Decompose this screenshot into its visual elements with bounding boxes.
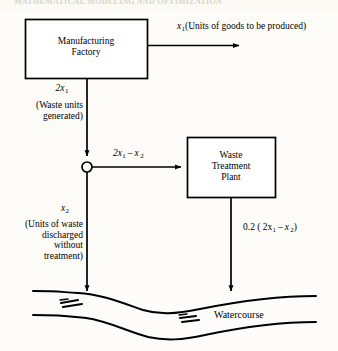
goods-output-subscript: 1 <box>181 25 185 33</box>
untreated-discharge-subscript: 2 <box>65 207 69 215</box>
treated-sub-1: 1 <box>272 226 276 234</box>
split-junction-circle <box>82 162 92 172</box>
waste-generated-subscript: 1 <box>65 87 69 95</box>
treated-prefix: 0.2 ( 2x <box>243 222 272 232</box>
manufacturing-factory-label: Manufacturing Factory <box>25 36 147 58</box>
to-treatment-minus: – <box>126 148 135 158</box>
waste-generated-var: 2x <box>56 83 65 93</box>
factory-label-line1: Manufacturing <box>25 36 147 47</box>
diagram-page: MATHEMATICAL MODELING AND OPTIMIZATION <box>0 0 338 351</box>
goods-output-text: (Units of goods to be produced) <box>185 21 306 31</box>
untreated-discharge-label: x2 <box>46 203 84 215</box>
waste-generated-label: 2x1 <box>41 83 83 95</box>
untreated-note-line3: without <box>4 240 83 251</box>
plant-label-line3: Plant <box>187 172 275 183</box>
plant-label-line2: Treatment <box>187 161 275 172</box>
untreated-note-line2: discharged <box>4 230 83 241</box>
waste-note-line2: generated) <box>8 111 83 122</box>
watercourse-label: Watercourse <box>214 310 264 321</box>
untreated-discharge-note: (Units of waste discharged without treat… <box>4 219 83 261</box>
watercourse-lower-bank <box>33 315 316 339</box>
factory-label-line2: Factory <box>25 47 147 58</box>
plant-label-line1: Waste <box>187 150 275 161</box>
untreated-note-line4: treatment) <box>4 251 83 262</box>
to-treatment-term-a: 2x <box>113 148 122 158</box>
to-treatment-sub-b: 2 <box>139 152 144 160</box>
untreated-note-line1: (Units of waste <box>4 219 83 230</box>
to-treatment-sub-a: 1 <box>122 152 126 160</box>
treated-sub-2: 2 <box>289 226 294 234</box>
waste-treatment-plant-label: Waste Treatment Plant <box>187 150 275 183</box>
treated-minus: – <box>276 222 285 232</box>
treated-discharge-label: 0.2 ( 2x1–x2) <box>243 222 297 234</box>
goods-output-label: x1(Units of goods to be produced) <box>177 21 306 33</box>
waste-note-line1: (Waste units <box>8 100 83 111</box>
water-ripple-left <box>60 299 82 307</box>
to-treatment-label: 2x1–x2 <box>113 148 144 160</box>
water-ripple-middle <box>179 314 199 322</box>
treated-suffix: ) <box>294 222 297 232</box>
waste-generated-note: (Waste units generated) <box>8 100 83 121</box>
watercourse-upper-bank <box>33 291 316 313</box>
